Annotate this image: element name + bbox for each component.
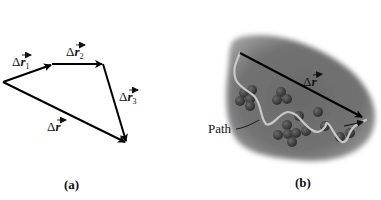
svg-text:Δr2: Δr2 (66, 44, 83, 61)
label-delta-r2: Δr2 (66, 44, 85, 61)
svg-text:Δr: Δr (47, 119, 61, 134)
svg-text:Δr1: Δr1 (12, 54, 29, 71)
panel-b: Δr Path (b) (208, 35, 375, 190)
vector-delta-r-resultant (3, 82, 125, 142)
label-delta-r1: Δr1 (12, 54, 31, 71)
label-delta-r3: Δr3 (119, 89, 138, 106)
svg-text:Δr3: Δr3 (119, 89, 136, 106)
svg-text:Δr: Δr (303, 74, 317, 89)
label-delta-r: Δr (47, 119, 66, 134)
panel-a: Δr1 Δr2 Δr3 Δr (a) (3, 44, 138, 192)
caption-a: (a) (64, 177, 79, 192)
path-label: Path (208, 121, 232, 136)
caption-b: (b) (295, 175, 311, 190)
vector-diagram: Δr1 Δr2 Δr3 Δr (a) (0, 0, 381, 200)
